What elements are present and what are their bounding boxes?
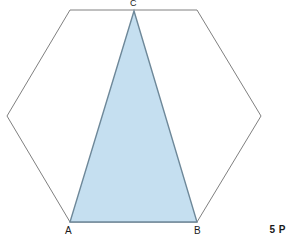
points-badge: 5 P [269,225,286,235]
vertex-label-c: C [130,0,137,8]
geometry-figure-canvas [0,0,292,241]
vertex-label-a: A [65,226,72,236]
vertex-label-b: B [194,226,201,236]
